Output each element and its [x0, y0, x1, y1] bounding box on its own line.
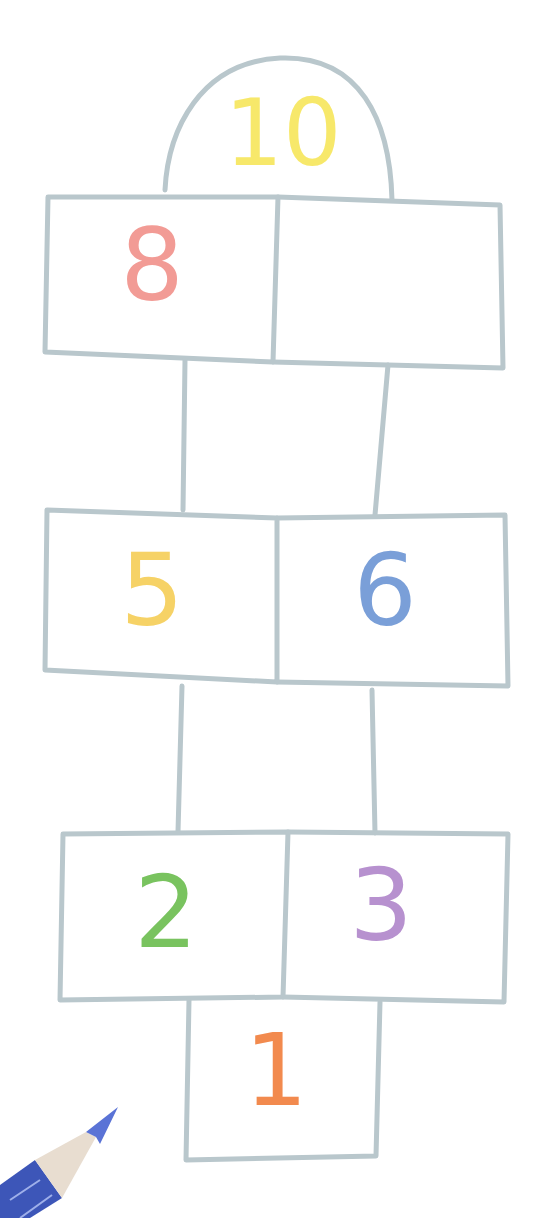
- square-4-outline: [178, 686, 375, 833]
- square-6-label: 6: [353, 532, 417, 649]
- square-8-label: 8: [120, 207, 184, 324]
- square-9-outline: [273, 197, 503, 368]
- square-7-outline: [183, 360, 388, 515]
- pencil-icon: [0, 1107, 118, 1218]
- square-2-label: 2: [134, 854, 198, 971]
- square-3-label: 3: [349, 847, 413, 964]
- square-5-label: 5: [120, 532, 184, 649]
- hopscotch-illustration: 10 8 5 6 2 3 1: [0, 0, 542, 1218]
- square-10-label: 10: [224, 80, 341, 187]
- square-1-label: 1: [244, 1012, 308, 1129]
